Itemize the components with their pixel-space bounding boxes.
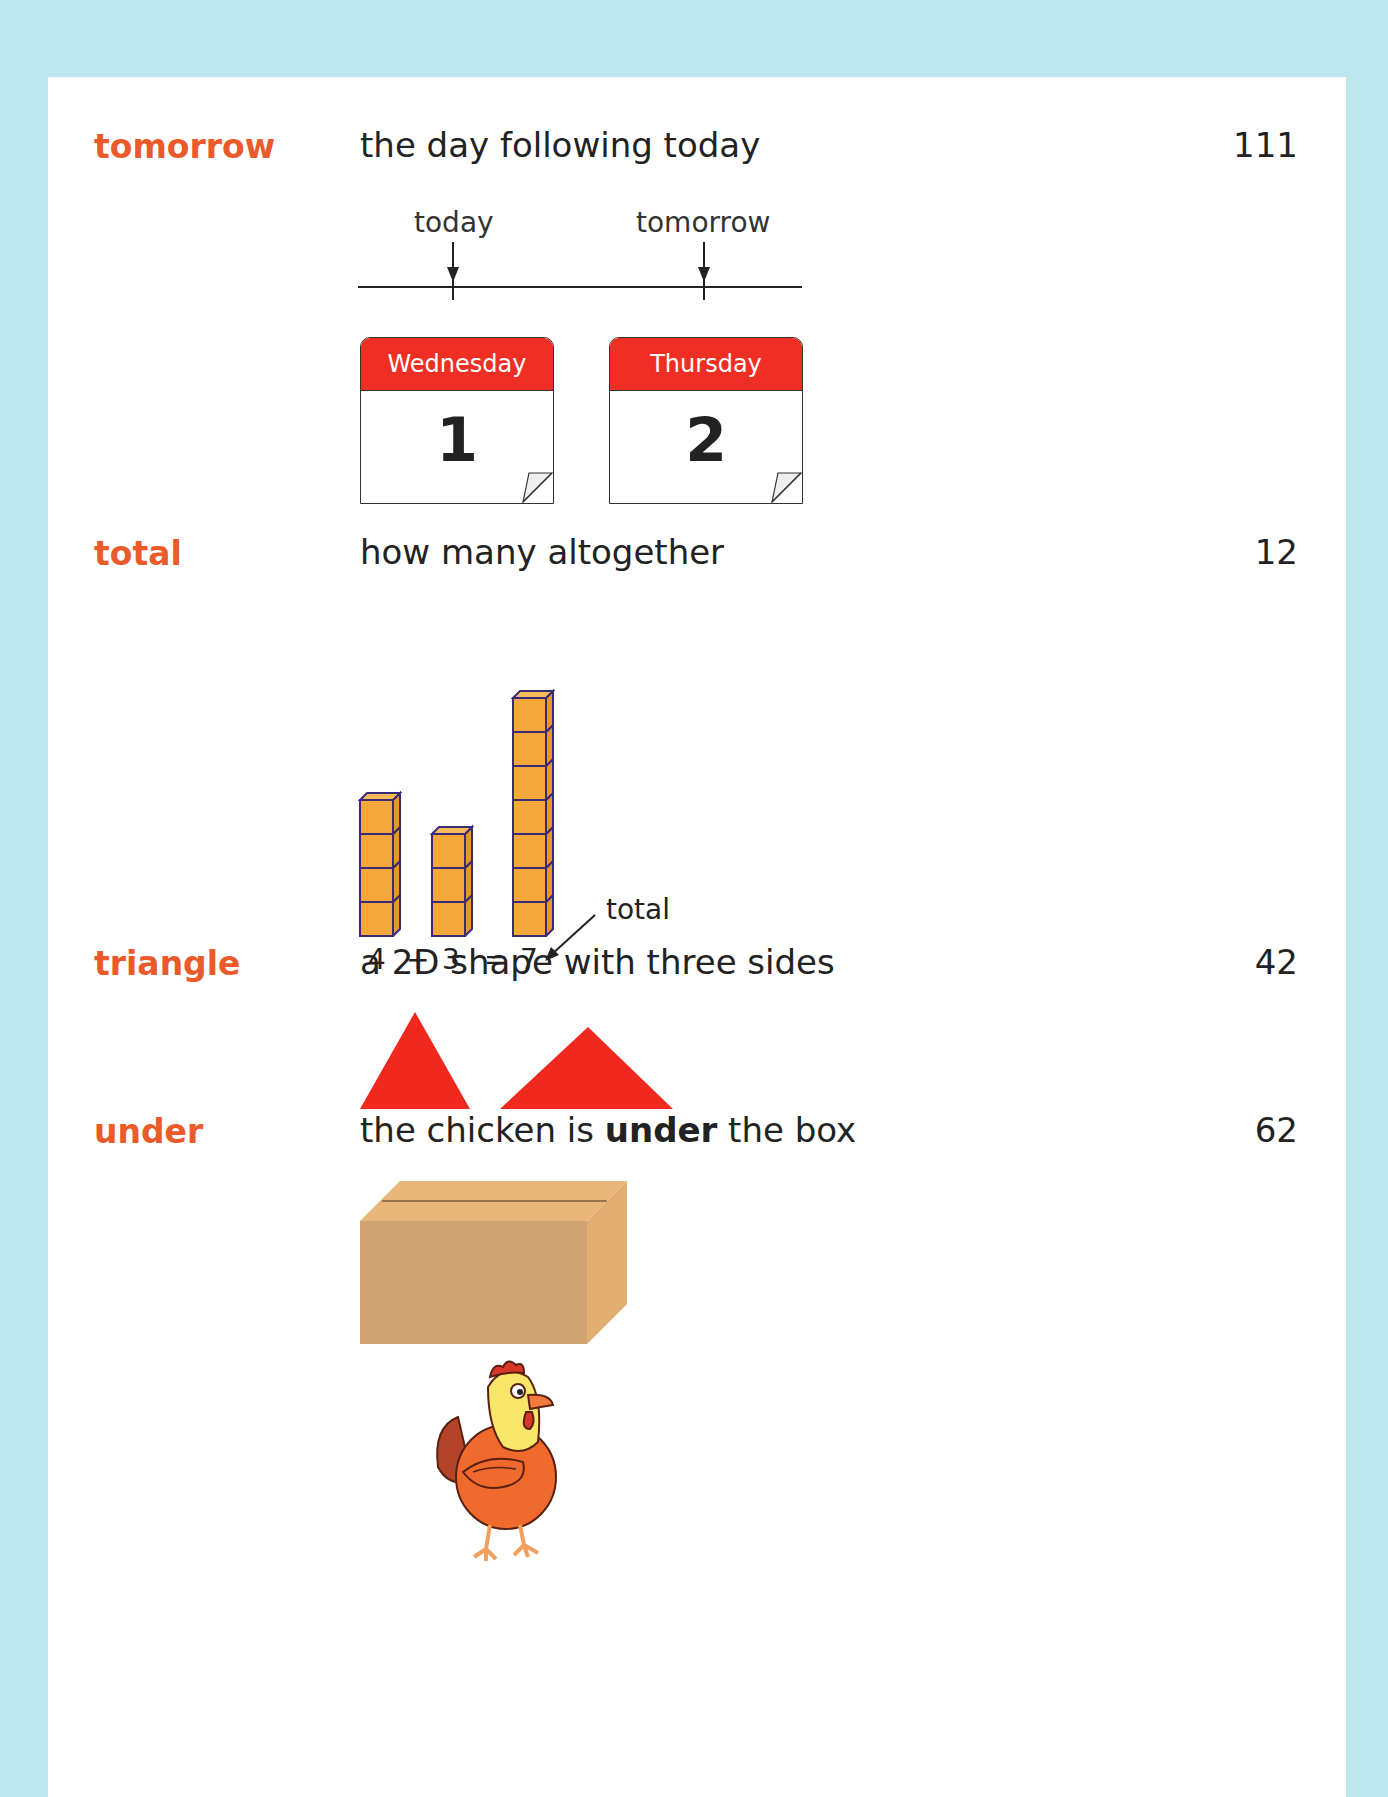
calendar-thursday: Thursday 2	[609, 337, 803, 504]
definition-triangle: a 2D shape with three sides	[360, 942, 835, 982]
calendar-date: 2	[610, 405, 802, 475]
term-total: total	[94, 534, 182, 573]
page-curl-icon	[770, 471, 802, 503]
definition-total: how many altogether	[360, 532, 724, 572]
definition-text: the box	[717, 1110, 856, 1150]
definition-text: the chicken is	[360, 1110, 605, 1150]
page-ref-tomorrow: 111	[1233, 125, 1298, 165]
glossary-page: tomorrow the day following today 111 tod…	[48, 77, 1346, 1797]
total-annotation: total	[606, 893, 670, 926]
definition-tomorrow: the day following today	[360, 125, 760, 165]
definition-under: the chicken is under the box	[360, 1110, 856, 1150]
timeline-label-today: today	[414, 206, 494, 239]
timeline-icon	[358, 242, 808, 302]
page-ref-under: 62	[1255, 1110, 1298, 1150]
page-ref-triangle: 42	[1255, 942, 1298, 982]
calendar-date: 1	[361, 405, 553, 475]
cube-towers-icon	[358, 602, 558, 937]
triangles-icon	[360, 1012, 690, 1112]
calendar-day-label: Wednesday	[361, 338, 553, 391]
term-triangle: triangle	[94, 944, 240, 983]
term-tomorrow: tomorrow	[94, 127, 275, 166]
chicken-icon	[428, 1357, 578, 1567]
box-icon	[360, 1181, 630, 1351]
page-ref-total: 12	[1255, 532, 1298, 572]
timeline-label-tomorrow: tomorrow	[636, 206, 770, 239]
term-under: under	[94, 1112, 203, 1151]
page-curl-icon	[521, 471, 553, 503]
calendar-day-label: Thursday	[610, 338, 802, 391]
calendar-wednesday: Wednesday 1	[360, 337, 554, 504]
definition-emphasis: under	[605, 1110, 718, 1150]
